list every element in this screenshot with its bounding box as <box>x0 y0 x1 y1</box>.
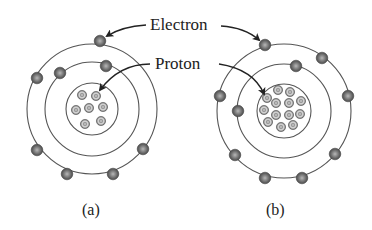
proton <box>285 87 294 96</box>
proton <box>271 98 280 107</box>
electron <box>137 143 149 155</box>
electron <box>31 72 43 84</box>
proton <box>263 117 272 126</box>
atom-b <box>214 39 354 184</box>
electron-arrow-b <box>221 26 259 40</box>
proton <box>96 116 105 125</box>
electron <box>259 39 271 51</box>
proton <box>80 119 89 128</box>
electron <box>259 172 271 184</box>
proton <box>71 105 80 114</box>
proton <box>271 110 280 119</box>
proton <box>273 85 282 94</box>
proton <box>284 98 293 107</box>
electron-arrow-a <box>107 25 146 36</box>
electron <box>290 60 302 72</box>
atom-a <box>27 35 157 180</box>
proton <box>259 105 268 114</box>
proton <box>276 122 285 131</box>
atom-diagram: Electron Proton (a) (b) <box>0 0 372 230</box>
electron <box>31 144 43 156</box>
electron <box>214 90 226 102</box>
proton <box>91 91 100 100</box>
electron <box>94 35 106 47</box>
proton <box>84 103 93 112</box>
proton <box>98 102 107 111</box>
proton <box>284 110 293 119</box>
atom-a-caption: (a) <box>82 201 100 219</box>
proton <box>296 96 305 105</box>
electron <box>316 52 328 64</box>
electron <box>329 148 341 160</box>
electron <box>107 168 119 180</box>
electron <box>342 90 354 102</box>
electron <box>296 172 308 184</box>
electron-label: Electron <box>150 15 208 34</box>
proton <box>295 109 304 118</box>
atom-b-caption: (b) <box>266 201 285 219</box>
electron-orbit <box>237 64 331 158</box>
electron <box>229 149 241 161</box>
proton <box>262 93 271 102</box>
electron <box>100 60 112 72</box>
proton-label: Proton <box>155 54 201 73</box>
proton <box>77 90 86 99</box>
electron <box>61 168 73 180</box>
electron <box>232 105 244 117</box>
electron <box>54 67 66 79</box>
proton <box>288 120 297 129</box>
